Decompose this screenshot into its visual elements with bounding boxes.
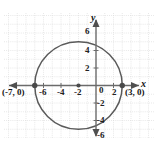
axis-lines xyxy=(9,20,139,136)
right-intercept-label: (3, 0) xyxy=(125,88,145,97)
left-intercept-label: (-7, 0) xyxy=(2,88,25,97)
x-tick-label-neg6: -6 xyxy=(39,88,47,97)
y-tick-label-4: 4 xyxy=(85,46,90,55)
y-tick-label-neg4: -4 xyxy=(97,116,105,125)
point-left-intercept xyxy=(32,83,37,88)
y-axis-label: y xyxy=(91,13,95,23)
axis-arrows xyxy=(9,19,139,137)
coordinate-plane-svg xyxy=(0,0,158,143)
x-tick-label-2: 2 xyxy=(112,88,117,97)
y-tick-label-2: 2 xyxy=(85,64,90,73)
origin-label: 0 xyxy=(99,86,104,95)
grid-lines xyxy=(4,13,154,138)
y-tick-label-6: 6 xyxy=(85,27,90,36)
y-tick-label-neg2: -2 xyxy=(97,99,105,108)
graph-figure: 6 4 2 -2 -4 -6 0 -6 -4 -2 2 y x (-7, 0) … xyxy=(0,0,158,143)
x-tick-label-neg2: -2 xyxy=(74,88,82,97)
x-tick-label-neg4: -4 xyxy=(57,88,65,97)
y-tick-label-neg6: -6 xyxy=(97,131,105,140)
